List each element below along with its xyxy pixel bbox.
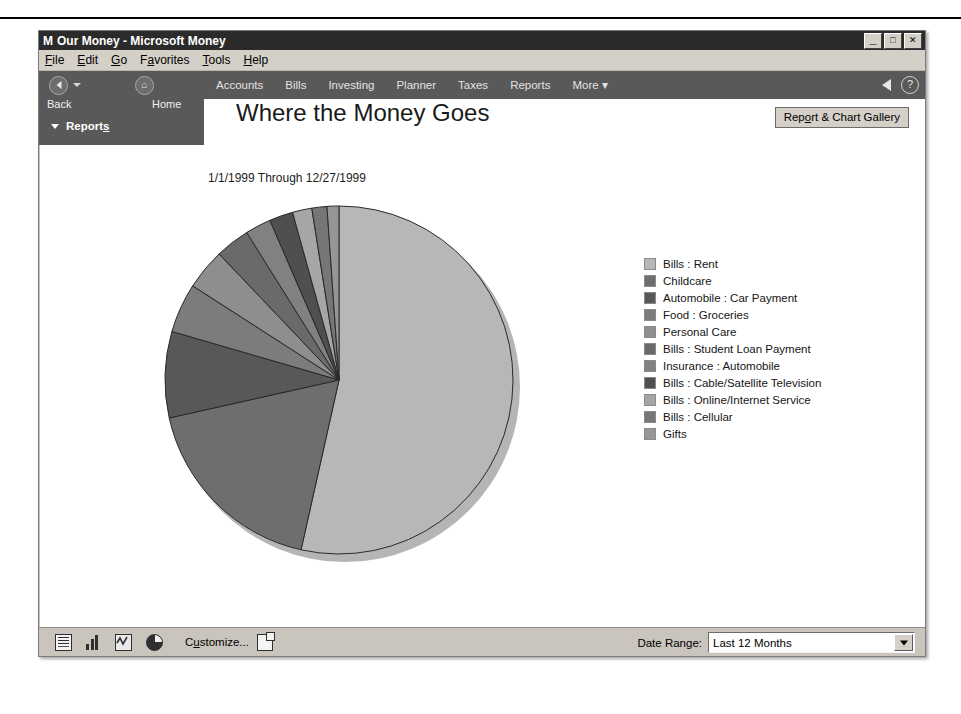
legend-label: Personal Care <box>663 326 737 338</box>
close-button[interactable]: ✕ <box>904 33 922 49</box>
legend-label: Bills : Cable/Satellite Television <box>663 377 821 389</box>
nav-tab-planner[interactable]: Planner <box>396 79 436 91</box>
nav-right-group: ? <box>882 71 919 99</box>
legend-label: Childcare <box>663 275 712 287</box>
legend-label: Bills : Student Loan Payment <box>663 343 811 355</box>
speaker-icon[interactable] <box>882 79 891 91</box>
nav-tab-reports[interactable]: Reports <box>510 79 550 91</box>
window-controls: _ □ ✕ <box>864 33 922 49</box>
legend-item: Childcare <box>644 272 821 289</box>
legend-item: Bills : Cellular <box>644 408 821 425</box>
back-arrow-icon[interactable] <box>49 76 68 95</box>
report-date-subtitle: 1/1/1999 Through 12/27/1999 <box>208 171 366 185</box>
customize-button[interactable]: Customize... <box>185 636 249 648</box>
page-top-rule <box>0 17 961 19</box>
menu-go-post: o <box>120 53 127 67</box>
nav-tab-taxes[interactable]: Taxes <box>458 79 488 91</box>
legend-label: Automobile : Car Payment <box>663 292 797 304</box>
close-icon: ✕ <box>905 34 921 48</box>
chevron-down-icon <box>51 124 59 129</box>
window-title: Our Money - Microsoft Money <box>57 35 864 47</box>
legend-item: Food : Groceries <box>644 306 821 323</box>
menu-item-edit[interactable]: Edit <box>77 53 98 67</box>
report-chart-gallery-button[interactable]: Report & Chart Gallery <box>775 107 909 128</box>
menu-bar: File Edit Go Favorites Tools Help <box>39 50 925 71</box>
nav-tab-investing[interactable]: Investing <box>328 79 374 91</box>
legend-swatch <box>644 292 656 304</box>
legend-label: Bills : Rent <box>663 258 718 270</box>
gallery-label-post: rt & Chart Gallery <box>811 111 900 123</box>
menu-fav-post: vorites <box>154 53 189 67</box>
title-row: Back Home Reports Where the Money Goes R… <box>39 99 925 145</box>
nav-tab-bills[interactable]: Bills <box>285 79 306 91</box>
menu-edit-post: dit <box>85 53 98 67</box>
nav-tab-accounts[interactable]: Accounts <box>216 79 263 91</box>
sidebar-item-reports-label: Reports <box>66 120 109 132</box>
pie-chart-icon[interactable] <box>146 634 163 651</box>
menu-item-favorites[interactable]: Favorites <box>140 53 189 67</box>
minimize-button[interactable]: _ <box>864 33 882 49</box>
legend-swatch <box>644 377 656 389</box>
menu-help-post: elp <box>252 53 268 67</box>
legend-label: Gifts <box>663 428 687 440</box>
pie-slice-group <box>165 206 513 554</box>
printed-page: M Our Money - Microsoft Money _ □ ✕ File… <box>0 0 961 714</box>
menu-item-file[interactable]: File <box>45 53 64 67</box>
home-button[interactable]: ⌂ <box>135 76 154 95</box>
home-button-label[interactable]: Home <box>152 98 181 110</box>
date-range-label: Date Range: <box>637 637 702 649</box>
legend-swatch <box>644 394 656 406</box>
legend-swatch <box>644 326 656 338</box>
customize-settings-icon[interactable] <box>257 634 273 651</box>
sidebar-item-reports[interactable]: Reports <box>39 117 204 135</box>
legend-label: Insurance : Automobile <box>663 360 780 372</box>
back-button-label[interactable]: Back <box>47 98 71 110</box>
legend-item: Bills : Cable/Satellite Television <box>644 374 821 391</box>
navigation-band: ⌂ Accounts Bills Investing Planner Taxes… <box>39 71 925 99</box>
menu-go-accel: G <box>111 53 120 67</box>
help-icon[interactable]: ? <box>901 76 919 94</box>
legend-swatch <box>644 258 656 270</box>
report-toolbar: Customize... Date Range: Last 12 Months <box>39 627 925 656</box>
pie-chart <box>164 205 524 565</box>
back-dropdown-chevron-icon[interactable] <box>73 83 81 87</box>
gallery-label-pre: Rep <box>784 111 805 123</box>
nav-left-group: ⌂ <box>39 71 204 99</box>
legend-swatch <box>644 411 656 423</box>
date-range-chevron-down-icon[interactable] <box>894 634 913 651</box>
application-window: M Our Money - Microsoft Money _ □ ✕ File… <box>38 30 926 657</box>
reports-label-accel: s <box>103 120 109 132</box>
menu-item-go[interactable]: Go <box>111 53 127 67</box>
report-view-icon[interactable] <box>55 634 72 651</box>
customize-post: stomize... <box>200 636 249 648</box>
maximize-button[interactable]: □ <box>884 33 902 49</box>
nav-tab-more[interactable]: More ▾ <box>572 78 607 92</box>
nav-tabs: Accounts Bills Investing Planner Taxes R… <box>216 78 608 92</box>
line-chart-icon[interactable] <box>115 634 132 651</box>
legend-item: Bills : Student Loan Payment <box>644 340 821 357</box>
bar-chart-icon[interactable] <box>86 635 101 650</box>
sidebar-header: Back Home Reports <box>39 99 204 145</box>
legend-label: Bills : Cellular <box>663 411 733 423</box>
minimize-icon: _ <box>865 34 881 48</box>
date-range-group: Date Range: Last 12 Months <box>637 632 915 653</box>
report-canvas: 1/1/1999 Through 12/27/1999 Bills : Rent… <box>39 145 925 627</box>
legend-item: Gifts <box>644 425 821 442</box>
menu-item-help[interactable]: Help <box>243 53 268 67</box>
line-chart-glyph <box>116 635 128 647</box>
legend-swatch <box>644 428 656 440</box>
page-title: Where the Money Goes <box>236 99 489 127</box>
reports-label-pre: Report <box>66 120 103 132</box>
window-titlebar: M Our Money - Microsoft Money _ □ ✕ <box>39 31 925 50</box>
date-range-select[interactable]: Last 12 Months <box>708 632 915 653</box>
legend-item: Personal Care <box>644 323 821 340</box>
money-logo-icon: M <box>43 35 53 47</box>
menu-help-accel: H <box>243 53 252 67</box>
legend-item: Insurance : Automobile <box>644 357 821 374</box>
menu-item-tools[interactable]: Tools <box>202 53 230 67</box>
date-range-value: Last 12 Months <box>709 637 792 649</box>
pie-chart-svg <box>164 205 524 565</box>
menu-tools-post: ools <box>208 53 230 67</box>
legend-swatch <box>644 343 656 355</box>
view-type-icons <box>55 634 163 651</box>
